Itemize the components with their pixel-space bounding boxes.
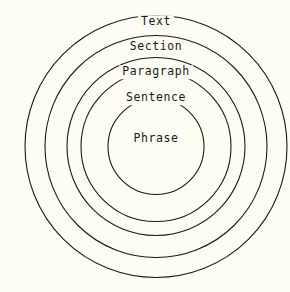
ring-label-phrase: Phrase (130, 132, 181, 146)
ring-circle-paragraph (67, 58, 245, 236)
ring-label-sentence: Sentence (123, 91, 189, 105)
ring-label-section: Section (127, 40, 186, 54)
concentric-circles-diagram: Text Section Paragraph Sentence Phrase (0, 0, 290, 292)
ring-label-paragraph: Paragraph (119, 65, 193, 79)
ring-circle-text (25, 16, 287, 278)
ring-label-text: Text (138, 15, 174, 29)
ring-circle-phrase (108, 99, 204, 195)
